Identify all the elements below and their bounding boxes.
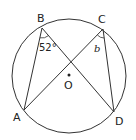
label-C: C (98, 13, 106, 26)
segment-BA (24, 28, 42, 110)
segment-BD (42, 28, 114, 112)
angle-label-C: b (94, 43, 100, 54)
circle-diagram: B C A D O 52° b (0, 0, 136, 140)
segment-CD (103, 29, 114, 112)
angle-arc-B (40, 36, 49, 38)
label-D: D (115, 115, 123, 128)
segment-CA (24, 29, 103, 110)
label-B: B (37, 12, 45, 25)
label-A: A (13, 111, 21, 124)
angle-label-B: 52° (39, 42, 57, 53)
label-O: O (64, 79, 73, 92)
angle-arc-C (97, 35, 104, 38)
center-dot (68, 74, 71, 77)
